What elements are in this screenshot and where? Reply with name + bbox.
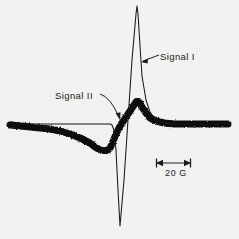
signal-ii-trace [10,101,228,151]
signal-ii-leader-line [100,94,121,120]
epr-spectrum-figure: Signal I Signal II 20 G [0,0,239,239]
signal-i-leader-line [141,55,159,64]
scale-bar-label: 20 G [158,169,194,178]
signal-i-label: Signal I [160,52,195,62]
scale-bar [156,159,191,168]
spectrum-plot [0,0,239,239]
signal-ii-label: Signal II [55,91,93,101]
